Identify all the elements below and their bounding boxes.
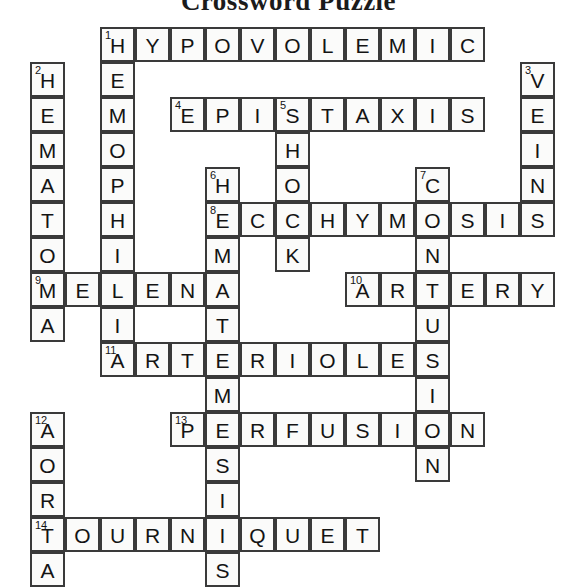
crossword-cell[interactable]: T <box>415 272 450 307</box>
crossword-cell[interactable]: E <box>135 272 170 307</box>
crossword-cell[interactable]: R <box>135 517 170 552</box>
crossword-cell[interactable]: I <box>485 202 520 237</box>
crossword-cell[interactable]: 14T <box>30 517 65 552</box>
crossword-cell[interactable]: O <box>65 517 100 552</box>
crossword-cell[interactable]: U <box>100 517 135 552</box>
crossword-cell[interactable]: S <box>450 97 485 132</box>
crossword-cell[interactable]: I <box>520 132 555 167</box>
crossword-cell[interactable]: N <box>450 412 485 447</box>
crossword-cell[interactable]: A <box>205 272 240 307</box>
crossword-cell[interactable]: E <box>380 342 415 377</box>
crossword-cell[interactable]: N <box>415 447 450 482</box>
crossword-cell[interactable]: N <box>520 167 555 202</box>
crossword-cell[interactable]: S <box>205 447 240 482</box>
crossword-cell[interactable]: I <box>275 342 310 377</box>
crossword-cell[interactable]: S <box>520 202 555 237</box>
crossword-cell[interactable]: P <box>205 97 240 132</box>
crossword-cell[interactable]: O <box>275 167 310 202</box>
crossword-cell[interactable]: S <box>450 202 485 237</box>
crossword-cell[interactable]: U <box>310 412 345 447</box>
crossword-cell[interactable]: E <box>30 97 65 132</box>
crossword-cell[interactable]: T <box>310 97 345 132</box>
crossword-cell[interactable]: 4E <box>170 97 205 132</box>
crossword-cell[interactable]: I <box>100 307 135 342</box>
crossword-cell[interactable]: T <box>30 202 65 237</box>
crossword-cell[interactable]: O <box>100 132 135 167</box>
crossword-cell[interactable]: U <box>275 517 310 552</box>
crossword-cell[interactable]: R <box>135 342 170 377</box>
crossword-cell[interactable]: M <box>380 202 415 237</box>
crossword-cell[interactable]: R <box>30 482 65 517</box>
crossword-cell[interactable]: A <box>30 307 65 342</box>
crossword-cell[interactable]: Y <box>520 272 555 307</box>
crossword-cell[interactable]: M <box>380 27 415 62</box>
crossword-cell[interactable]: I <box>100 237 135 272</box>
crossword-cell[interactable]: N <box>415 237 450 272</box>
crossword-cell[interactable]: 10A <box>345 272 380 307</box>
crossword-cell[interactable]: R <box>485 272 520 307</box>
crossword-cell[interactable]: M <box>30 132 65 167</box>
crossword-cell[interactable]: E <box>520 97 555 132</box>
crossword-cell[interactable]: O <box>415 202 450 237</box>
crossword-cell[interactable]: E <box>345 27 380 62</box>
crossword-cell[interactable]: E <box>310 517 345 552</box>
crossword-cell[interactable]: S <box>205 552 240 587</box>
crossword-cell[interactable]: P <box>100 167 135 202</box>
crossword-cell[interactable]: L <box>310 27 345 62</box>
crossword-cell[interactable]: N <box>170 272 205 307</box>
crossword-cell[interactable]: C <box>275 202 310 237</box>
crossword-cell[interactable]: N <box>170 517 205 552</box>
crossword-cell[interactable]: I <box>205 482 240 517</box>
crossword-cell[interactable]: L <box>345 342 380 377</box>
crossword-cell[interactable]: 8E <box>205 202 240 237</box>
crossword-cell[interactable]: T <box>170 342 205 377</box>
crossword-cell[interactable]: E <box>205 412 240 447</box>
crossword-cell[interactable]: 9M <box>30 272 65 307</box>
crossword-cell[interactable]: 13P <box>170 412 205 447</box>
crossword-cell[interactable]: C <box>450 27 485 62</box>
crossword-cell[interactable]: O <box>310 342 345 377</box>
crossword-cell[interactable]: 11A <box>100 342 135 377</box>
crossword-cell[interactable]: E <box>205 342 240 377</box>
crossword-cell[interactable]: A <box>30 167 65 202</box>
crossword-cell[interactable]: 2H <box>30 62 65 97</box>
crossword-cell[interactable]: R <box>380 272 415 307</box>
crossword-cell[interactable]: 6H <box>205 167 240 202</box>
crossword-cell[interactable]: O <box>30 237 65 272</box>
crossword-cell[interactable]: I <box>415 97 450 132</box>
crossword-cell[interactable]: R <box>240 412 275 447</box>
crossword-cell[interactable]: E <box>100 62 135 97</box>
crossword-cell[interactable]: A <box>345 97 380 132</box>
crossword-cell[interactable]: O <box>30 447 65 482</box>
crossword-cell[interactable]: O <box>205 27 240 62</box>
crossword-cell[interactable]: T <box>205 307 240 342</box>
crossword-cell[interactable]: M <box>100 97 135 132</box>
crossword-cell[interactable]: M <box>205 237 240 272</box>
crossword-cell[interactable]: I <box>415 27 450 62</box>
crossword-cell[interactable]: M <box>205 377 240 412</box>
crossword-cell[interactable]: 5S <box>275 97 310 132</box>
crossword-cell[interactable]: O <box>275 27 310 62</box>
crossword-cell[interactable]: Q <box>240 517 275 552</box>
crossword-cell[interactable]: R <box>240 342 275 377</box>
crossword-cell[interactable]: I <box>240 97 275 132</box>
crossword-cell[interactable]: 12A <box>30 412 65 447</box>
crossword-cell[interactable]: P <box>170 27 205 62</box>
crossword-cell[interactable]: H <box>310 202 345 237</box>
crossword-cell[interactable]: H <box>275 132 310 167</box>
crossword-cell[interactable]: 1H <box>100 27 135 62</box>
crossword-cell[interactable]: I <box>380 412 415 447</box>
crossword-cell[interactable]: T <box>345 517 380 552</box>
crossword-cell[interactable]: X <box>380 97 415 132</box>
crossword-cell[interactable]: A <box>30 552 65 587</box>
crossword-cell[interactable]: H <box>100 202 135 237</box>
crossword-cell[interactable]: K <box>275 237 310 272</box>
crossword-cell[interactable]: O <box>415 412 450 447</box>
crossword-cell[interactable]: 3V <box>520 62 555 97</box>
crossword-cell[interactable]: S <box>345 412 380 447</box>
crossword-cell[interactable]: I <box>205 517 240 552</box>
crossword-cell[interactable]: S <box>415 342 450 377</box>
crossword-cell[interactable]: I <box>415 377 450 412</box>
crossword-cell[interactable]: E <box>65 272 100 307</box>
crossword-cell[interactable]: Y <box>345 202 380 237</box>
